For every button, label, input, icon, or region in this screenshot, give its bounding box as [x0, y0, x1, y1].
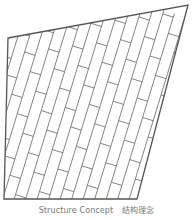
caption: Structure Concept 结构理念	[0, 204, 193, 215]
outline-shape	[4, 5, 188, 199]
caption-english: Structure Concept	[39, 206, 114, 215]
structure-diagram	[0, 0, 193, 200]
caption-chinese: 结构理念	[122, 206, 154, 215]
plank-pattern	[0, 0, 193, 200]
